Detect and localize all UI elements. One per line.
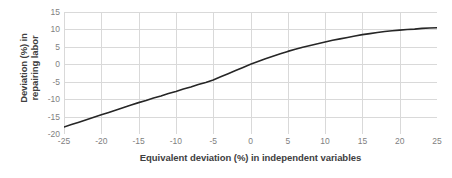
y-axis-tick-label: 5 (55, 42, 60, 52)
y-axis-tick-label: -10 (48, 94, 60, 104)
x-axis-tick-label: 5 (285, 136, 290, 146)
x-axis-tick-label: 25 (432, 136, 441, 146)
y-axis-tick-label: 0 (55, 59, 60, 69)
x-axis-tick-label: -15 (132, 136, 144, 146)
y-axis-tick-label: 15 (51, 7, 60, 17)
chart-container: Deviation (%) in repairing labor 151050-… (0, 0, 452, 178)
y-axis-title-line1: Deviation (%) in (18, 33, 30, 103)
gridlines (64, 12, 437, 134)
x-axis-tick-label: 20 (395, 136, 404, 146)
plot-svg (64, 12, 437, 134)
data-series-layer (64, 28, 437, 127)
y-axis-tick-label: -15 (48, 112, 60, 122)
y-axis-tick-label: 10 (51, 24, 60, 34)
x-axis-tick-label: 15 (358, 136, 367, 146)
y-axis-tick-label: -5 (52, 77, 60, 87)
data-line (64, 28, 437, 127)
x-axis-tick-label: -10 (170, 136, 182, 146)
x-axis-tick-label: -5 (209, 136, 217, 146)
x-axis-tick-label: 0 (248, 136, 253, 146)
x-axis-tick-label: -20 (95, 136, 107, 146)
plot-area (64, 12, 437, 134)
x-axis-tick-label: -25 (58, 136, 70, 146)
x-axis-tick-label: 10 (320, 136, 329, 146)
x-axis-tick-labels: -25-20-15-10-50510152025 (64, 136, 437, 150)
x-axis-title: Equivalent deviation (%) in independent … (64, 152, 437, 163)
y-axis-tick-labels: 151050-5-10-15-20 (38, 12, 60, 134)
